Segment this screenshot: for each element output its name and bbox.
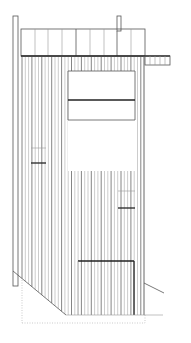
upper-panel [68, 71, 135, 171]
corner-post [13, 16, 18, 286]
parapet-band [21, 29, 145, 56]
elevation-drawing [0, 0, 191, 343]
grade-line-right [144, 283, 164, 293]
roof-overhang [145, 56, 170, 65]
door [78, 261, 134, 315]
